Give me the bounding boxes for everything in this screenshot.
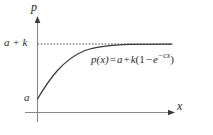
x-axis-label: x: [177, 100, 182, 112]
intercept-tick-label: a: [24, 92, 30, 103]
equation-exponent: −cx: [158, 51, 170, 60]
equation-lhs: p(x): [91, 53, 109, 65]
asymptote-tick-label: a + k: [4, 37, 27, 48]
equation-close-paren: ): [170, 53, 174, 65]
chart-canvas: [0, 0, 213, 135]
x-axis-arrowhead: [168, 110, 175, 115]
equation-open-paren: (1: [136, 53, 145, 65]
equation-minus: −: [145, 53, 153, 65]
exponential-growth-chart: p x a + k a p(x)=a+k(1−e−cx): [0, 0, 213, 135]
equation-equals: =: [109, 53, 117, 65]
y-axis-label: p: [31, 1, 37, 13]
y-axis-arrowhead: [35, 16, 41, 23]
equation-plus: +: [122, 53, 130, 65]
equation-annotation: p(x)=a+k(1−e−cx): [91, 54, 174, 65]
